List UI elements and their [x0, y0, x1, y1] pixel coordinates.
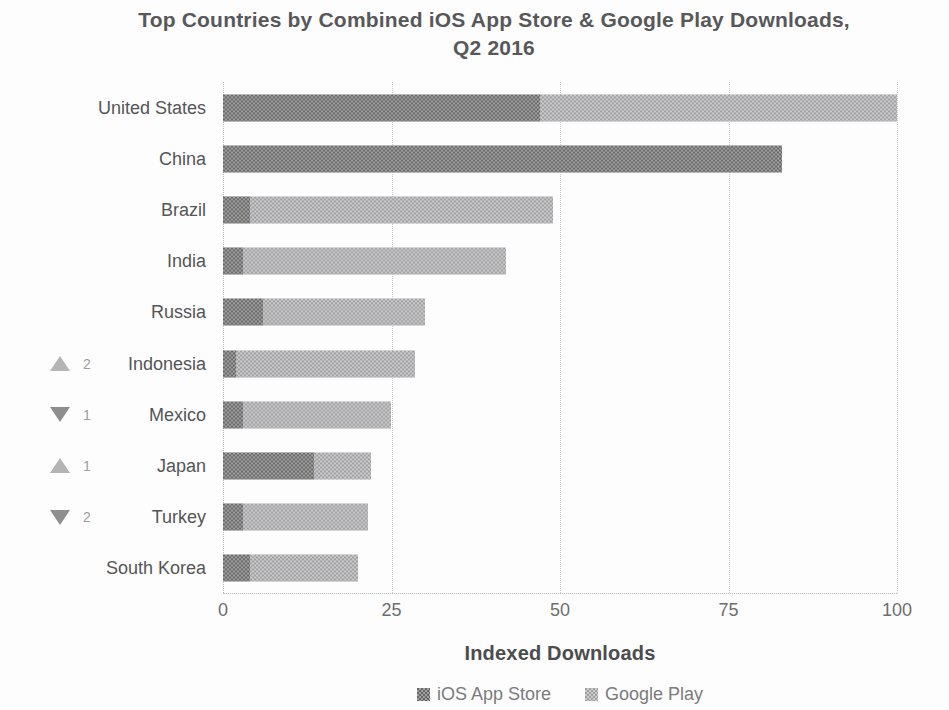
rank-change-indicator: 1	[50, 407, 91, 423]
country-label: Mexico	[149, 404, 206, 425]
chart-row: 1Japan	[0, 440, 949, 491]
row-label-area: 1Mexico	[0, 389, 223, 440]
bar-segment-google-play	[314, 452, 371, 479]
bar-segment-google-play	[263, 299, 425, 326]
stacked-bar	[223, 401, 897, 428]
bar-segment-google-play	[243, 401, 391, 428]
bar-segment-ios-app-store	[223, 350, 236, 377]
rank-up-triangle-icon	[50, 458, 70, 473]
legend-swatch-icon	[417, 688, 430, 701]
chart-row: South Korea	[0, 543, 949, 594]
row-label-area: 2Turkey	[0, 492, 223, 543]
x-tick-75: 75	[718, 600, 738, 621]
rank-change-count: 2	[83, 509, 91, 525]
bar-segment-ios-app-store	[223, 196, 250, 223]
row-label-area: 2Indonesia	[0, 338, 223, 389]
rank-change-count: 1	[83, 407, 91, 423]
country-label: South Korea	[106, 558, 206, 579]
legend-swatch-icon	[585, 688, 598, 701]
bar-area	[223, 133, 897, 184]
rank-change-indicator: 1	[50, 458, 91, 474]
bar-segment-ios-app-store	[223, 248, 243, 275]
bar-segment-ios-app-store	[223, 504, 243, 531]
stacked-bar	[223, 299, 897, 326]
chart-rows: United StatesChinaBrazilIndiaRussia2Indo…	[0, 82, 949, 594]
row-label-area: South Korea	[0, 543, 223, 594]
bar-segment-ios-app-store	[223, 145, 782, 172]
legend: iOS App StoreGoogle Play	[223, 684, 897, 705]
stacked-bar	[223, 248, 897, 275]
bar-area	[223, 287, 897, 338]
rank-change-indicator: 2	[50, 509, 91, 525]
chart-row: India	[0, 236, 949, 287]
country-label: India	[167, 251, 206, 272]
bar-segment-ios-app-store	[223, 452, 314, 479]
x-tick-0: 0	[218, 600, 228, 621]
legend-item-ios-app-store: iOS App Store	[417, 684, 551, 705]
chart-row: United States	[0, 82, 949, 133]
chart-row: Brazil	[0, 184, 949, 235]
bar-area	[223, 184, 897, 235]
legend-label: iOS App Store	[437, 684, 551, 705]
x-axis-ticks: 0255075100	[223, 600, 897, 624]
bar-area	[223, 492, 897, 543]
bar-segment-google-play	[243, 504, 368, 531]
country-label: China	[159, 148, 206, 169]
row-label-area: Brazil	[0, 184, 223, 235]
row-label-area: Russia	[0, 287, 223, 338]
stacked-bar	[223, 555, 897, 582]
plot-area: United StatesChinaBrazilIndiaRussia2Indo…	[0, 82, 949, 594]
chart-row: China	[0, 133, 949, 184]
bar-segment-ios-app-store	[223, 299, 263, 326]
bar-segment-google-play	[250, 196, 553, 223]
rank-change-count: 1	[83, 458, 91, 474]
stacked-bar	[223, 196, 897, 223]
stacked-bar	[223, 452, 897, 479]
x-tick-50: 50	[550, 600, 570, 621]
row-label-area: China	[0, 133, 223, 184]
country-label: Russia	[151, 302, 206, 323]
chart-page: Top Countries by Combined iOS App Store …	[0, 0, 949, 710]
bar-area	[223, 82, 897, 133]
stacked-bar	[223, 350, 897, 377]
bar-segment-google-play	[243, 248, 506, 275]
bar-segment-ios-app-store	[223, 401, 243, 428]
country-label: Japan	[157, 455, 206, 476]
rank-change-count: 2	[83, 356, 91, 372]
chart-row: 1Mexico	[0, 389, 949, 440]
stacked-bar	[223, 145, 897, 172]
country-label: Turkey	[152, 507, 206, 528]
chart-row: 2Turkey	[0, 492, 949, 543]
legend-item-google-play: Google Play	[585, 684, 703, 705]
country-label: Brazil	[161, 199, 206, 220]
rank-down-triangle-icon	[50, 510, 70, 525]
rank-down-triangle-icon	[50, 407, 70, 422]
x-axis-title: Indexed Downloads	[223, 642, 897, 665]
chart-row: Russia	[0, 287, 949, 338]
country-label: Indonesia	[128, 353, 206, 374]
country-label: United States	[98, 97, 206, 118]
bar-area	[223, 338, 897, 389]
bar-area	[223, 389, 897, 440]
bar-area	[223, 440, 897, 491]
bar-segment-ios-app-store	[223, 555, 250, 582]
stacked-bar	[223, 94, 897, 121]
bar-area	[223, 543, 897, 594]
bar-segment-google-play	[236, 350, 415, 377]
chart-row: 2Indonesia	[0, 338, 949, 389]
chart-title: Top Countries by Combined iOS App Store …	[124, 6, 864, 63]
stacked-bar	[223, 504, 897, 531]
legend-label: Google Play	[605, 684, 703, 705]
rank-up-triangle-icon	[50, 356, 70, 371]
x-tick-100: 100	[882, 600, 912, 621]
row-label-area: 1Japan	[0, 440, 223, 491]
rank-change-indicator: 2	[50, 356, 91, 372]
bar-segment-google-play	[540, 94, 897, 121]
row-label-area: United States	[0, 82, 223, 133]
bar-area	[223, 236, 897, 287]
x-tick-25: 25	[381, 600, 401, 621]
bar-segment-google-play	[250, 555, 358, 582]
bar-segment-ios-app-store	[223, 94, 540, 121]
row-label-area: India	[0, 236, 223, 287]
